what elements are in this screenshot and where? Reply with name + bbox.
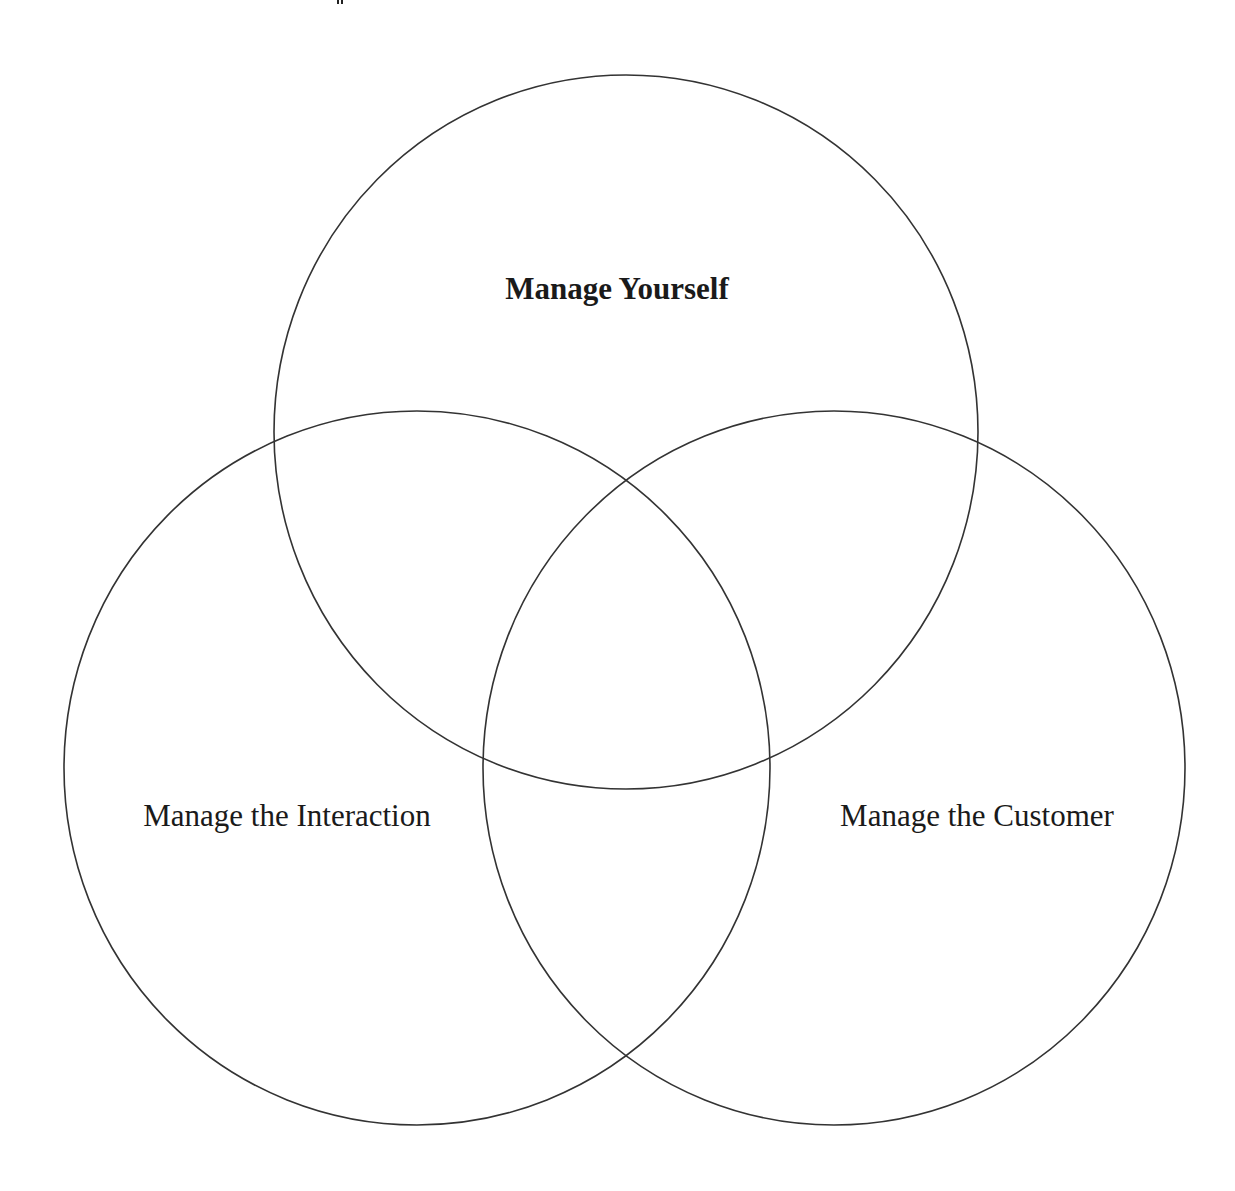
label-manage-the-interaction: Manage the Interaction xyxy=(143,798,430,834)
label-manage-the-customer: Manage the Customer xyxy=(840,798,1114,834)
circle-manage-the-interaction xyxy=(64,411,770,1125)
circle-manage-the-customer xyxy=(483,411,1185,1125)
circle-manage-yourself xyxy=(274,75,978,789)
venn-diagram xyxy=(0,0,1235,1191)
label-manage-yourself: Manage Yourself xyxy=(505,271,729,307)
